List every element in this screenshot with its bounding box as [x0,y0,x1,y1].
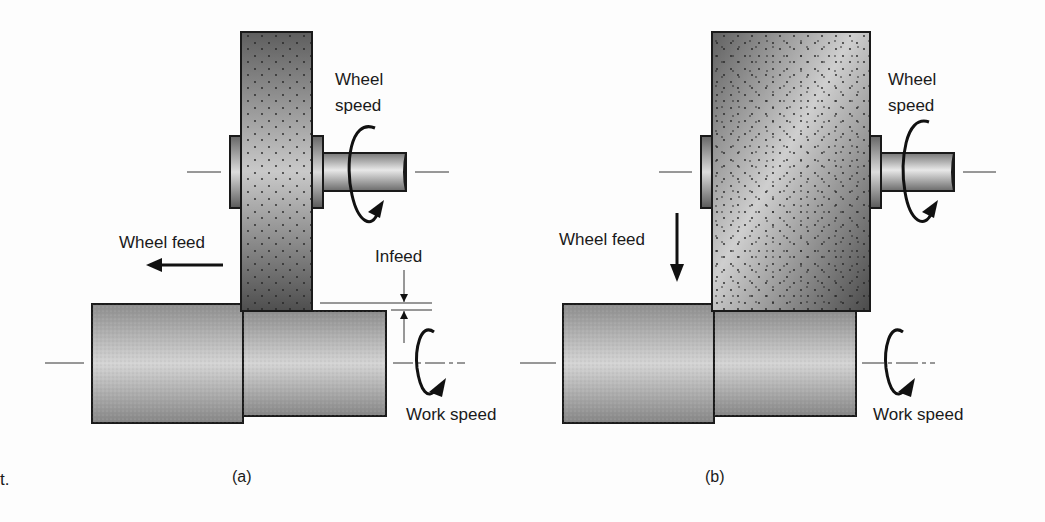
wheel-feed-label-b: Wheel feed [559,230,645,250]
work-speed-label-a: Work speed [406,405,496,425]
wheel-speed-label-b-line2: speed [888,96,934,116]
wheel-speed-label-a-line1: Wheel [335,70,383,90]
caption-a: (a) [232,468,252,486]
wheel-speed-label-b-line1: Wheel [888,70,936,90]
workpiece-a [92,304,386,423]
margin-text: t. [0,470,9,490]
wheel-feed-label-a: Wheel feed [119,233,205,253]
grinding-wheel-a [241,32,312,311]
wheel-speed-label-a-line2: speed [335,96,381,116]
work-speed-label-b: Work speed [873,405,963,425]
wheel-feed-arrow-a [146,258,223,272]
grinding-wheel-b [712,32,870,311]
panel-a [45,32,465,423]
infeed-label: Infeed [375,247,422,267]
caption-b: (b) [705,468,725,486]
workpiece-b [563,304,856,423]
wheel-feed-arrow-b [670,213,684,282]
panel-b [520,32,996,423]
